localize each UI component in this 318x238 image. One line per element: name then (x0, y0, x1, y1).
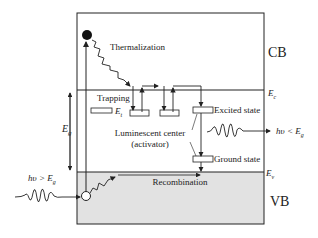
emitted-photon-wave (207, 124, 270, 137)
absorbed-photon-label: hυ > Eg (28, 173, 56, 185)
activator-label: (activator) (131, 139, 168, 149)
emitted-photon-label: hυ < Eg (276, 126, 304, 138)
absorbed-photon-wave (15, 189, 80, 202)
excited-state-level (193, 107, 213, 113)
hole-icon (82, 192, 91, 201)
ec-label: Ec (267, 88, 277, 100)
trap-level-1 (130, 110, 149, 116)
ev-label: Ev (265, 168, 275, 180)
valence-band-label: VB (270, 194, 289, 209)
electron-icon (82, 30, 92, 40)
thermalization-label: Thermalization (110, 42, 165, 52)
ground-state-label: Ground state (214, 154, 260, 164)
conduction-band-label: CB (268, 45, 287, 60)
trap-level-2 (160, 110, 179, 116)
ground-state-level (193, 156, 213, 162)
luminescence-band-diagram: Eg Thermalization Trapping Et Excited st… (0, 0, 318, 238)
recombination-label: Recombination (153, 177, 208, 187)
trap-level-label: Et (114, 106, 123, 118)
trapping-label: Trapping (97, 93, 130, 103)
trap-level-reference (91, 108, 112, 113)
luminescent-center-label: Luminescent center (115, 128, 186, 138)
band-gap-label: Eg (61, 123, 72, 137)
excited-state-label: Excited state (214, 105, 260, 115)
